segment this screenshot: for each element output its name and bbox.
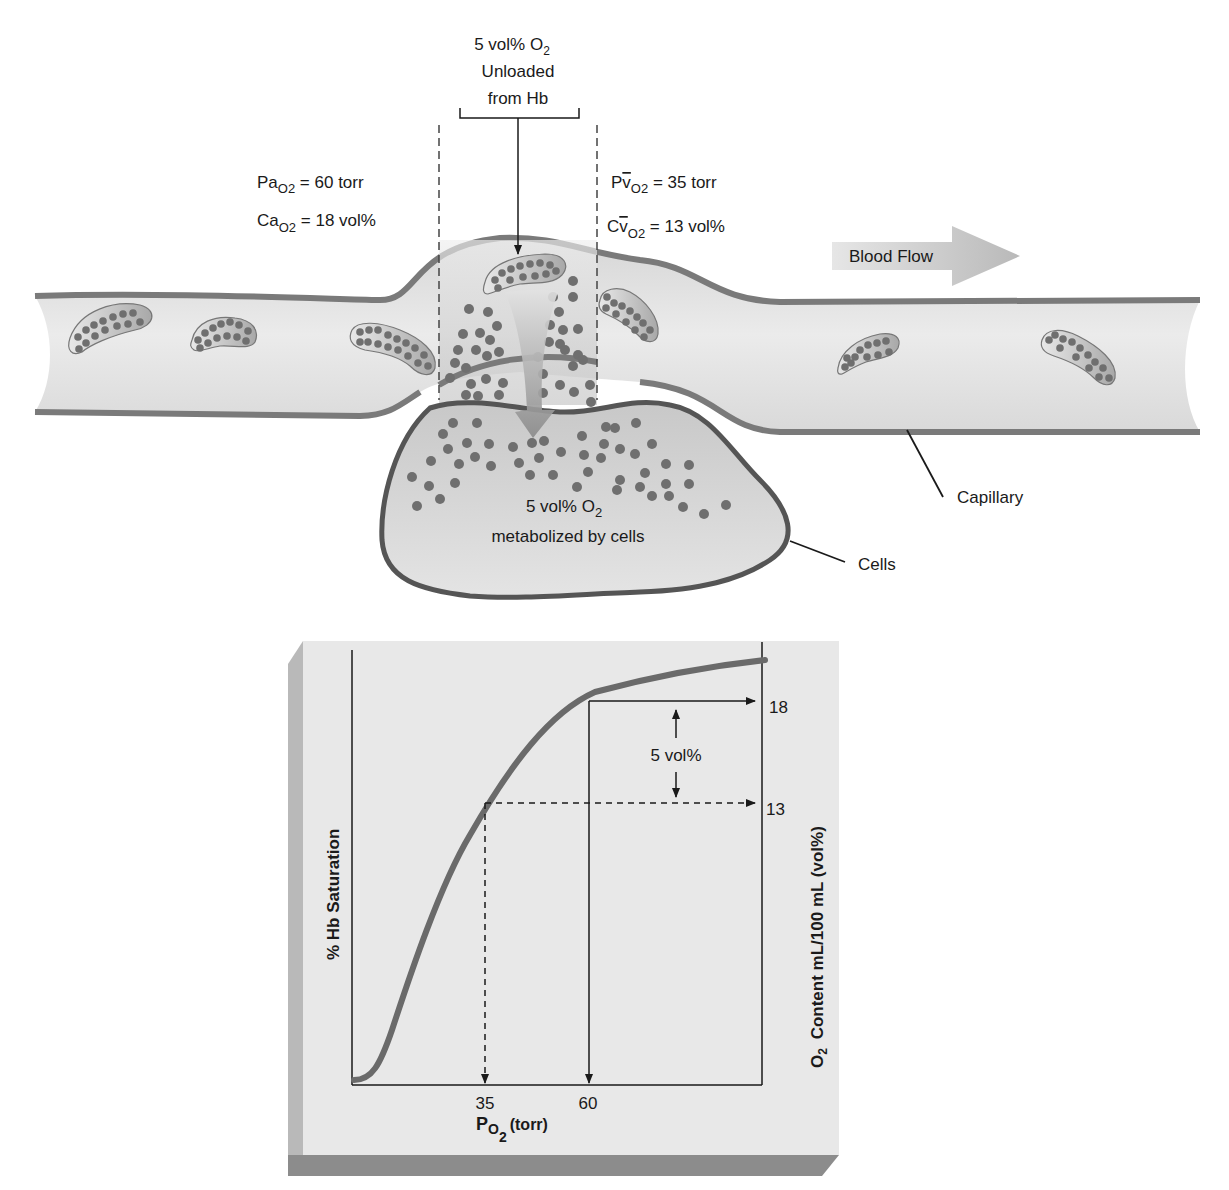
capillary-leader-line bbox=[907, 430, 943, 497]
x-tick-60: 60 bbox=[579, 1094, 598, 1113]
blood-flow-arrow: Blood Flow bbox=[832, 226, 1020, 286]
x-tick-35: 35 bbox=[476, 1094, 495, 1113]
unloaded-label-line3: from Hb bbox=[488, 89, 548, 108]
arterial-cao2-label: CaO2 = 18 vol% bbox=[257, 211, 376, 235]
right-tick-18: 18 bbox=[769, 698, 788, 717]
difference-annotation: 5 vol% bbox=[650, 746, 701, 765]
cells-label: Cells bbox=[858, 555, 896, 574]
y-axis-left-label: % Hb Saturation bbox=[324, 829, 343, 960]
unloaded-label-line2: Unloaded bbox=[482, 62, 555, 81]
metabolized-label-line2: metabolized by cells bbox=[491, 527, 644, 546]
y-axis-right-label: O2 Content mL/100 mL (vol%) bbox=[808, 826, 830, 1068]
cells-leader-line bbox=[790, 541, 845, 562]
venous-pvo2-label: PvO2 = 35 torr bbox=[611, 173, 717, 196]
right-tick-13: 13 bbox=[766, 800, 785, 819]
capillary-label: Capillary bbox=[957, 488, 1024, 507]
unloaded-label-line1: 5 vol% O2 bbox=[474, 35, 550, 58]
blood-flow-label: Blood Flow bbox=[849, 247, 934, 266]
chart-panel bbox=[288, 641, 839, 1176]
arterial-pao2-label: PaO2 = 60 torr bbox=[257, 173, 364, 196]
unloaded-bracket bbox=[460, 108, 579, 254]
venous-cvo2-label: CvO2 = 13 vol% bbox=[607, 217, 725, 241]
diagram-canvas: 5 vol% O2 Unloaded from Hb PaO2 = 60 tor… bbox=[0, 0, 1229, 1190]
